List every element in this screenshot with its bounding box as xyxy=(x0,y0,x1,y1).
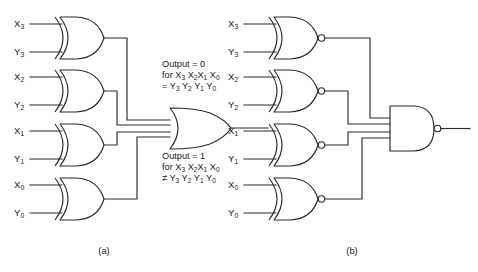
wire-a-out3 xyxy=(104,38,170,120)
xor-gate-a-2 xyxy=(55,70,104,112)
pin-label-b-y2: Y2 xyxy=(228,99,238,111)
xnor-gate-b-2 xyxy=(269,70,325,112)
circuit-canvas: X3 Y3 X2 Y2 X1 Y1 xyxy=(0,0,478,272)
xnor-bubble-b-3 xyxy=(318,35,324,41)
xor-gate-a-1 xyxy=(55,124,104,166)
note-output-zero-line2: for X3 X2X1 X0 xyxy=(162,70,220,81)
caption-a: (a) xyxy=(98,245,109,256)
note-output-zero: Output = 0 for X3 X2X1 X0 = Y3 Y2 Y1 Y0 xyxy=(162,59,220,92)
panel-b: X3 Y3 X2 Y2 X1 Y1 xyxy=(228,17,470,256)
logic-circuit-figure: X3 Y3 X2 Y2 X1 Y1 xyxy=(0,0,478,272)
pin-label-b-x1: X1 xyxy=(228,125,238,137)
or-gate-a-output xyxy=(170,108,231,149)
xor-gate-a-3 xyxy=(55,17,104,59)
pin-label-a-y2: Y2 xyxy=(14,99,24,111)
pin-label-a-x0: X0 xyxy=(14,179,24,191)
pin-label-a-x2: X2 xyxy=(14,71,24,83)
xnor-bubble-b-2 xyxy=(318,88,324,94)
xnor-bubble-b-1 xyxy=(318,142,324,148)
pin-label-a-x1: X1 xyxy=(14,125,24,137)
note-output-one-line3: ≠ Y3 Y2 Y1 Y0 xyxy=(162,173,216,184)
pin-label-a-x3: X3 xyxy=(14,18,24,30)
xnor-gate-b-0 xyxy=(269,178,325,220)
note-output-one: Output = 1 for X3 X2X1 X0 ≠ Y3 Y2 Y1 Y0 xyxy=(162,151,220,184)
note-output-zero-line1: Output = 0 xyxy=(162,59,205,69)
note-output-zero-line3: = Y3 Y2 Y1 Y0 xyxy=(162,81,216,92)
caption-b: (b) xyxy=(346,245,357,256)
wire-b-out3 xyxy=(325,38,390,118)
pin-label-b-y0: Y0 xyxy=(228,207,238,219)
note-output-one-line1: Output = 1 xyxy=(162,151,205,161)
pin-label-b-y1: Y1 xyxy=(228,153,238,165)
pin-label-b-x2: X2 xyxy=(228,71,238,83)
nand-bubble-b-output xyxy=(434,125,441,132)
xnor-gate-b-3 xyxy=(269,17,325,59)
pin-label-b-y3: Y3 xyxy=(228,46,238,58)
pin-label-a-y1: Y1 xyxy=(14,153,24,165)
wire-b-out0 xyxy=(325,138,390,199)
nand-gate-b-output xyxy=(390,106,441,151)
xnor-gate-b-1 xyxy=(269,124,325,166)
note-output-one-line2: for X3 X2X1 X0 xyxy=(162,162,220,173)
xor-gate-a-0 xyxy=(55,178,104,220)
pin-label-a-y0: Y0 xyxy=(14,207,24,219)
wire-a-out0 xyxy=(104,137,170,199)
xnor-bubble-b-0 xyxy=(318,196,324,202)
pin-label-b-x3: X3 xyxy=(228,18,238,30)
pin-label-a-y3: Y3 xyxy=(14,46,24,58)
pin-label-b-x0: X0 xyxy=(228,179,238,191)
wire-b-out2 xyxy=(325,91,390,124)
